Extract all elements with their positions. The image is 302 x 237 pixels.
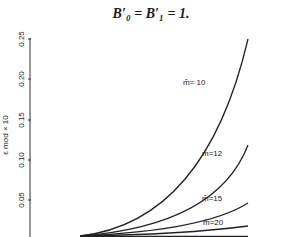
curve-label-m15: m̂=15: [202, 194, 223, 203]
curve-m10: [80, 39, 248, 236]
y-axis-label: ε mod × 10: [1, 115, 10, 155]
curve-label-m10: m̂= 10: [183, 78, 206, 87]
tick-label-0.25: 0.25: [17, 31, 26, 47]
tick-label-0.15: 0.15: [17, 112, 26, 128]
tick-label-0.05: 0.05: [17, 192, 26, 208]
chart: 0.25 0.20 0.15 0.10 0.05 ε mod × 10 m̂= …: [0, 0, 302, 237]
curve-label-m20: m̂=20: [203, 218, 224, 227]
tick-label-0.20: 0.20: [17, 71, 26, 87]
tick-label-0.10: 0.10: [17, 152, 26, 168]
curve-label-m12: m̂=12: [202, 149, 223, 158]
